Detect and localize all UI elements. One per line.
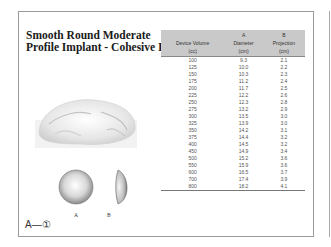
- cell-diameter: 13.5: [224, 113, 263, 120]
- cell-projection: 3.6: [263, 162, 305, 169]
- table-row: 15010.32.3: [161, 71, 305, 78]
- cell-volume: 375: [161, 134, 224, 141]
- sphere-label-a: A: [74, 212, 78, 218]
- cell-diameter: 11.2: [224, 78, 263, 85]
- col-header: Diameter: [224, 39, 263, 47]
- implant-size-table: A B Device Volume Diameter Projection (c…: [161, 30, 305, 191]
- slide-frame: Smooth Round Moderate Profile Implant - …: [18, 11, 314, 237]
- cell-diameter: 13.2: [224, 106, 263, 113]
- cell-projection: 2.9: [263, 106, 305, 113]
- table-row: 60016.53.7: [161, 169, 305, 176]
- table-header-row: (cc) (cm) (cm): [161, 47, 305, 57]
- col-header: (cm): [224, 47, 263, 57]
- cell-diameter: 12.3: [224, 99, 263, 106]
- cell-diameter: 12.2: [224, 92, 263, 99]
- sphere-front-icon: [59, 170, 93, 204]
- cell-projection: 4.1: [263, 183, 305, 191]
- cell-projection: 2.5: [263, 85, 305, 92]
- cell-volume: 150: [161, 71, 224, 78]
- table-row: 55015.93.6: [161, 162, 305, 169]
- cell-projection: 3.2: [263, 141, 305, 148]
- cell-volume: 100: [161, 57, 224, 65]
- figure-label: A—①: [25, 219, 51, 230]
- cell-diameter: 14.2: [224, 127, 263, 134]
- cell-diameter: 17.4: [224, 176, 263, 183]
- cell-projection: 3.1: [263, 127, 305, 134]
- cell-projection: 2.4: [263, 78, 305, 85]
- cell-projection: 3.4: [263, 148, 305, 155]
- cell-volume: 600: [161, 169, 224, 176]
- cell-volume: 700: [161, 176, 224, 183]
- table-row: 37514.43.2: [161, 134, 305, 141]
- table-row: 35014.23.1: [161, 127, 305, 134]
- implant-photo: [31, 90, 141, 150]
- table-row: 50015.23.6: [161, 155, 305, 162]
- cell-volume: 250: [161, 99, 224, 106]
- cell-projection: 3.0: [263, 113, 305, 120]
- cell-volume: 300: [161, 113, 224, 120]
- cell-projection: 3.9: [263, 176, 305, 183]
- page-title: Smooth Round Moderate Profile Implant - …: [26, 29, 161, 53]
- table-row: 70017.43.9: [161, 176, 305, 183]
- cell-volume: 450: [161, 148, 224, 155]
- table-row: 17511.22.4: [161, 78, 305, 85]
- cell-diameter: 15.2: [224, 155, 263, 162]
- col-header: (cc): [161, 47, 224, 57]
- col-header: [161, 30, 224, 39]
- cell-projection: 3.0: [263, 120, 305, 127]
- cell-volume: 225: [161, 92, 224, 99]
- cell-projection: 3.2: [263, 134, 305, 141]
- table-row: 12510.02.2: [161, 64, 305, 71]
- table-row: 20011.72.5: [161, 85, 305, 92]
- cell-volume: 350: [161, 127, 224, 134]
- cell-diameter: 13.9: [224, 120, 263, 127]
- cell-diameter: 18.2: [224, 183, 263, 191]
- cell-diameter: 15.9: [224, 162, 263, 169]
- title-line-1: Smooth Round Moderate: [26, 29, 161, 41]
- table-row: 1009.32.1: [161, 57, 305, 65]
- cell-projection: 2.6: [263, 92, 305, 99]
- cell-volume: 275: [161, 106, 224, 113]
- cell-volume: 175: [161, 78, 224, 85]
- table-row: 25012.32.8: [161, 99, 305, 106]
- cell-diameter: 16.5: [224, 169, 263, 176]
- col-header: A: [224, 30, 263, 39]
- cell-volume: 500: [161, 155, 224, 162]
- table-row: 32513.93.0: [161, 120, 305, 127]
- cell-volume: 550: [161, 162, 224, 169]
- cell-projection: 2.3: [263, 71, 305, 78]
- cell-diameter: 14.5: [224, 141, 263, 148]
- cell-diameter: 9.3: [224, 57, 263, 65]
- cell-diameter: 14.9: [224, 148, 263, 155]
- sphere-side-icon: [116, 170, 127, 204]
- cell-diameter: 10.0: [224, 64, 263, 71]
- cell-projection: 2.8: [263, 99, 305, 106]
- col-header: Projection: [263, 39, 305, 47]
- table-header-row: A B: [161, 30, 305, 39]
- cell-projection: 3.7: [263, 169, 305, 176]
- cell-volume: 200: [161, 85, 224, 92]
- table-row: 80018.24.1: [161, 183, 305, 191]
- sphere-label-b: B: [107, 212, 111, 218]
- cell-volume: 800: [161, 183, 224, 191]
- cell-volume: 400: [161, 141, 224, 148]
- cell-volume: 325: [161, 120, 224, 127]
- table-row: 40014.53.2: [161, 141, 305, 148]
- cell-diameter: 10.3: [224, 71, 263, 78]
- cell-projection: 2.1: [263, 57, 305, 65]
- table-row: 22512.22.6: [161, 92, 305, 99]
- table-row: 30013.53.0: [161, 113, 305, 120]
- table-row: 45014.93.4: [161, 148, 305, 155]
- col-header: B: [263, 30, 305, 39]
- cell-diameter: 14.4: [224, 134, 263, 141]
- implant-diagram: [57, 169, 147, 225]
- table-row: 27513.22.9: [161, 106, 305, 113]
- title-line-2: Profile Implant - Cohesive I: [26, 41, 161, 53]
- table-header-row: Device Volume Diameter Projection: [161, 39, 305, 47]
- col-header: (cm): [263, 47, 305, 57]
- cell-diameter: 11.7: [224, 85, 263, 92]
- col-header: Device Volume: [161, 39, 224, 47]
- cell-projection: 3.6: [263, 155, 305, 162]
- cell-volume: 125: [161, 64, 224, 71]
- cell-projection: 2.2: [263, 64, 305, 71]
